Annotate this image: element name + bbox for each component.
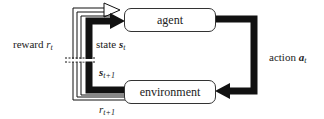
next-state-label: st+1 <box>99 67 115 80</box>
reward-label: reward rt <box>13 39 53 52</box>
action-label: action at <box>269 52 306 65</box>
state-label: state st <box>96 39 125 52</box>
environment-node: environment <box>124 80 216 104</box>
environment-label: environment <box>140 85 201 100</box>
action-arrowhead <box>215 83 230 99</box>
action-path <box>215 19 254 91</box>
state-arrowhead <box>110 13 125 29</box>
agent-node: agent <box>124 8 216 32</box>
agent-label: agent <box>157 13 183 28</box>
next-reward-label: rt+1 <box>99 104 115 117</box>
